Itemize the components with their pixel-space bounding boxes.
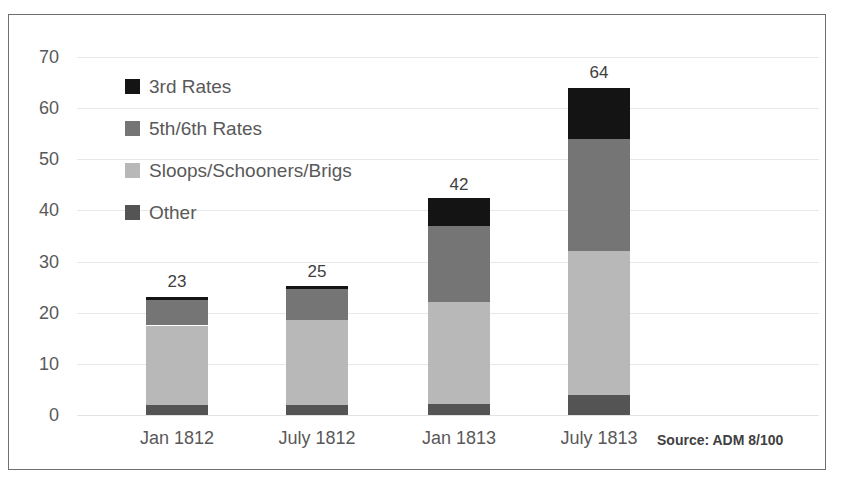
legend-item[interactable]: Other bbox=[125, 191, 352, 233]
bar-total-label: 23 bbox=[146, 273, 208, 290]
bar-segment[interactable] bbox=[568, 88, 630, 139]
x-axis-tick-label: Jan 1812 bbox=[140, 429, 214, 447]
bar-segment[interactable] bbox=[568, 251, 630, 394]
bar-segment[interactable] bbox=[146, 297, 208, 300]
bar-group[interactable]: 64July 1813 bbox=[568, 43, 630, 429]
bar-stack bbox=[428, 43, 490, 429]
chart-legend: 3rd Rates5th/6th RatesSloops/Schooners/B… bbox=[125, 65, 352, 233]
y-axis-tick-label: 60 bbox=[39, 99, 59, 117]
legend-swatch-icon bbox=[125, 79, 140, 94]
bar-segment[interactable] bbox=[286, 286, 348, 289]
y-axis-tick-label: 0 bbox=[49, 406, 59, 424]
legend-label: Other bbox=[149, 203, 197, 222]
bar-segment[interactable] bbox=[286, 405, 348, 415]
bar-segment[interactable] bbox=[286, 289, 348, 321]
chart-frame: 010203040506070 23Jan 181225July 181242J… bbox=[8, 14, 826, 470]
legend-item[interactable]: 5th/6th Rates bbox=[125, 107, 352, 149]
y-axis-tick-label: 20 bbox=[39, 304, 59, 322]
bar-segment[interactable] bbox=[146, 300, 208, 326]
bar-segment[interactable] bbox=[568, 139, 630, 252]
y-axis-tick-label: 40 bbox=[39, 201, 59, 219]
chart-screenshot: 010203040506070 23Jan 181225July 181242J… bbox=[0, 0, 842, 484]
bar-segment[interactable] bbox=[286, 320, 348, 404]
legend-item[interactable]: 3rd Rates bbox=[125, 65, 352, 107]
legend-swatch-icon bbox=[125, 121, 140, 136]
bar-total-label: 64 bbox=[568, 64, 630, 81]
y-axis-tick-label: 10 bbox=[39, 355, 59, 373]
x-axis-tick-label: July 1812 bbox=[278, 429, 355, 447]
bar-segment[interactable] bbox=[146, 326, 208, 405]
source-note: Source: ADM 8/100 bbox=[657, 433, 783, 447]
legend-label: Sloops/Schooners/Brigs bbox=[149, 161, 352, 180]
bar-total-label: 42 bbox=[428, 176, 490, 193]
legend-item[interactable]: Sloops/Schooners/Brigs bbox=[125, 149, 352, 191]
bar-segment[interactable] bbox=[146, 405, 208, 415]
y-axis-tick-label: 50 bbox=[39, 150, 59, 168]
bar-segment[interactable] bbox=[428, 404, 490, 415]
bar-stack bbox=[568, 43, 630, 429]
legend-label: 5th/6th Rates bbox=[149, 119, 262, 138]
x-axis-tick-label: July 1813 bbox=[560, 429, 637, 447]
bar-segment[interactable] bbox=[428, 198, 490, 226]
x-axis-tick-label: Jan 1813 bbox=[422, 429, 496, 447]
bar-segment[interactable] bbox=[428, 302, 490, 403]
legend-swatch-icon bbox=[125, 163, 140, 178]
bar-segment[interactable] bbox=[428, 226, 490, 303]
legend-swatch-icon bbox=[125, 205, 140, 220]
y-axis-tick-label: 70 bbox=[39, 48, 59, 66]
bar-segment[interactable] bbox=[568, 395, 630, 415]
y-axis-tick-label: 30 bbox=[39, 253, 59, 271]
bar-total-label: 25 bbox=[286, 263, 348, 280]
legend-label: 3rd Rates bbox=[149, 77, 231, 96]
bar-group[interactable]: 42Jan 1813 bbox=[428, 43, 490, 429]
